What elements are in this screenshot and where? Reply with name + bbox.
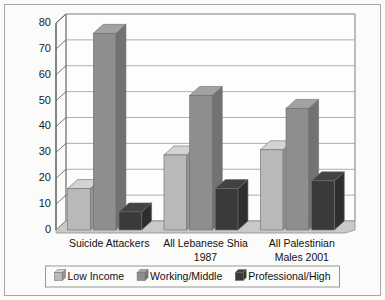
x-axis-category-label: Suicide Attackers — [69, 237, 150, 249]
y-axis-tick-label: 10 — [39, 197, 51, 209]
y-axis-tick-label: 0 — [45, 223, 51, 235]
y-axis-tick-label: 60 — [39, 68, 51, 80]
bar-front-face — [93, 33, 116, 230]
x-axis-category-label: Males 2001 — [275, 251, 329, 263]
bar-front-face — [190, 95, 213, 230]
axis-tick — [56, 169, 66, 178]
axis-tick — [56, 118, 66, 127]
axis-tick — [56, 66, 66, 75]
legend-item-label: Working/Middle — [150, 270, 222, 282]
bar-front-face — [164, 155, 187, 230]
bar-front-face — [312, 181, 335, 230]
bar-working-middle — [93, 24, 126, 230]
bar-front-face — [286, 108, 309, 230]
legend-swatch-front — [137, 273, 145, 281]
axis-tick — [56, 92, 66, 101]
axis-tick — [56, 195, 66, 204]
axis-tick — [56, 143, 66, 152]
bar-front-face — [68, 189, 91, 230]
legend-swatch-front — [235, 273, 243, 281]
bar-side-face — [116, 24, 126, 230]
y-axis-tick-label: 70 — [39, 42, 51, 54]
bar-side-face — [334, 172, 344, 230]
bar-professional-high — [312, 172, 345, 230]
bar-front-face — [119, 212, 142, 230]
y-axis-tick-label: 50 — [39, 94, 51, 106]
legend-swatch-low-income — [54, 270, 65, 281]
bar-chart: 01020304050607080Suicide AttackersAll Le… — [0, 0, 385, 300]
legend-item-label: Low Income — [67, 270, 124, 282]
x-axis-category-label: All Lebanese Shia — [163, 237, 248, 249]
y-axis-tick-label: 30 — [39, 145, 51, 157]
legend-swatch-front — [54, 273, 62, 281]
bar-front-face — [260, 150, 283, 230]
axis-tick — [56, 40, 66, 49]
x-axis-category-label: 1987 — [194, 251, 218, 263]
bar-front-face — [215, 189, 238, 230]
y-axis-tick-label: 40 — [39, 119, 51, 131]
y-axis-tick-label: 20 — [39, 171, 51, 183]
chart-screenshot: 01020304050607080Suicide AttackersAll Le… — [0, 0, 385, 300]
legend-swatch-professional-high — [235, 270, 246, 281]
bar-professional-high — [215, 180, 248, 230]
y-axis-tick-label: 80 — [39, 16, 51, 28]
x-axis-category-label: All Palestinian — [269, 237, 335, 249]
legend-item-label: Professional/High — [248, 270, 330, 282]
legend-swatch-working-middle — [137, 270, 148, 281]
